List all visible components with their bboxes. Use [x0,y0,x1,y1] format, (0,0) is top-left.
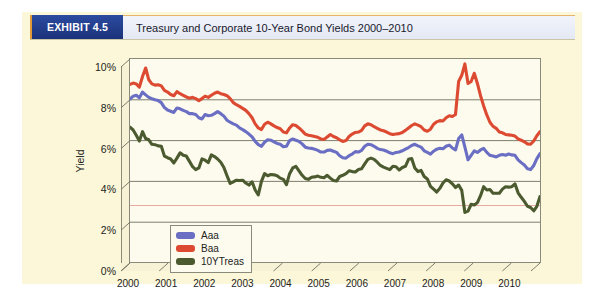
svg-text:2008: 2008 [422,278,445,289]
legend-item-10ytreas: 10YTreas [176,255,244,268]
svg-text:2006: 2006 [346,278,369,289]
svg-text:2%: 2% [101,224,116,236]
svg-text:Yield: Yield [74,149,86,172]
svg-text:2002: 2002 [193,278,216,289]
legend-label-aaa: Aaa [201,229,219,242]
legend-swatch-10ytreas [176,258,195,265]
svg-text:0%: 0% [101,265,116,277]
legend-swatch-baa [176,245,195,252]
svg-text:2000: 2000 [117,278,140,289]
legend-item-aaa: Aaa [176,229,244,242]
svg-text:2007: 2007 [384,278,407,289]
exhibit-header: EXHIBIT 4.5 Treasury and Corporate 10-Ye… [30,15,575,39]
svg-text:2010: 2010 [498,278,521,289]
legend-label-10ytreas: 10YTreas [201,255,244,268]
chart-container: 0%2%4%6%8%10% 20002001200220032004200520… [22,45,582,283]
data-series-lines [130,64,540,213]
legend-item-baa: Baa [176,242,244,255]
series-line-10ytreas [130,127,540,212]
y-axis-title: Yield [74,149,86,172]
legend-swatch-aaa [176,232,195,239]
svg-text:2001: 2001 [155,278,178,289]
exhibit-title: Treasury and Corporate 10-Year Bond Yiel… [123,15,575,39]
gridlines [130,100,540,222]
y-axis-tick-labels: 0%2%4%6%8%10% [95,61,116,277]
series-line-aaa [130,92,540,170]
series-line-baa [130,64,540,144]
svg-text:2005: 2005 [308,278,331,289]
svg-text:2009: 2009 [460,278,483,289]
exhibit-page: EXHIBIT 4.5 Treasury and Corporate 10-Ye… [0,0,604,295]
svg-text:6%: 6% [101,143,116,155]
svg-text:4%: 4% [101,183,116,195]
svg-text:8%: 8% [101,102,116,114]
legend-label-baa: Baa [201,242,219,255]
svg-text:2004: 2004 [269,278,292,289]
exhibit-number-tag: EXHIBIT 4.5 [30,15,123,39]
svg-text:10%: 10% [95,61,116,73]
chart-svg: 0%2%4%6%8%10% 20002001200220032004200520… [22,45,582,283]
chart-legend: Aaa Baa 10YTreas [170,225,252,273]
y-axis-ticks [121,59,130,271]
svg-text:2003: 2003 [231,278,254,289]
